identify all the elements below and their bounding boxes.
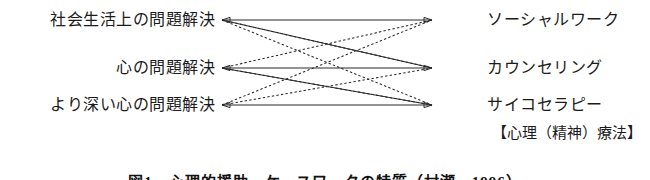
arrowhead-right-1 (424, 65, 432, 70)
edge-dashed-1-2 (222, 68, 432, 105)
arrowhead-left-0 (222, 17, 230, 22)
right-node-label-1: カウンセリング (487, 60, 603, 76)
figure-caption: 図1 心理的援助、ケースワークの特質（村瀬 1996） (0, 170, 650, 180)
arrowhead-group (222, 17, 432, 107)
left-node-label-1: 心の問題解決 (116, 60, 215, 76)
figure-diagram: 社会生活上の問題解決 心の問題解決 より深い心の問題解決 ソーシャルワーク カウ… (0, 0, 650, 180)
right-node-label-0: ソーシャルワーク (487, 12, 619, 28)
edge-dashed-1-0 (222, 20, 432, 68)
edge-group (222, 20, 432, 105)
edge-dashed-2-1 (222, 68, 432, 105)
arrowhead-left-1 (222, 65, 230, 70)
arrowhead-right-0 (424, 17, 432, 22)
edge-dashed-0-1 (222, 20, 432, 68)
edge-dashed-2-0 (222, 20, 432, 105)
arrowhead-left-2 (222, 102, 230, 107)
edge-solid-0-1 (222, 20, 432, 68)
edge-dashed-0-2 (222, 20, 432, 105)
right-node-label-2: サイコセラピー (487, 97, 603, 113)
left-node-label-2: より深い心の問題解決 (50, 97, 215, 113)
left-node-label-0: 社会生活上の問題解決 (50, 12, 215, 28)
arrowhead-right-2 (424, 102, 432, 107)
edge-solid-1-2 (222, 68, 432, 105)
group-bracket-label: 【心理（精神）療法】 (492, 126, 642, 141)
